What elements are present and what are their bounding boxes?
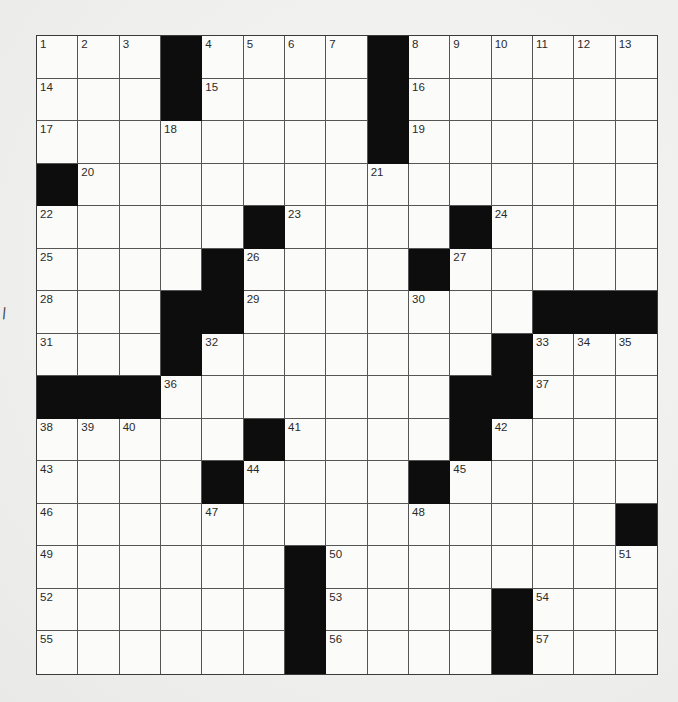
grid-cell-r3-c14[interactable]	[616, 164, 657, 207]
grid-cell-r5-c3[interactable]	[161, 249, 202, 292]
grid-cell-r14-c1[interactable]	[78, 631, 119, 674]
grid-cell-r1-c12[interactable]	[533, 79, 574, 122]
grid-cell-r1-c10[interactable]	[450, 79, 491, 122]
grid-cell-r2-c10[interactable]	[450, 121, 491, 164]
grid-cell-r8-c5[interactable]	[244, 376, 285, 419]
grid-cell-r10-c12[interactable]	[533, 461, 574, 504]
grid-cell-r12-c4[interactable]	[202, 546, 243, 589]
grid-cell-r14-c2[interactable]	[120, 631, 161, 674]
grid-cell-r8-c7[interactable]	[326, 376, 367, 419]
grid-cell-r11-c6[interactable]	[285, 504, 326, 547]
grid-cell-r12-c10[interactable]	[450, 546, 491, 589]
grid-cell-r13-c4[interactable]	[202, 589, 243, 632]
grid-cell-r6-c0[interactable]: 28	[37, 291, 78, 334]
grid-cell-r4-c6[interactable]: 23	[285, 206, 326, 249]
grid-cell-r4-c4[interactable]	[202, 206, 243, 249]
grid-cell-r3-c10[interactable]	[450, 164, 491, 207]
grid-cell-r14-c5[interactable]	[244, 631, 285, 674]
grid-cell-r13-c10[interactable]	[450, 589, 491, 632]
grid-cell-r12-c1[interactable]	[78, 546, 119, 589]
grid-cell-r4-c8[interactable]	[368, 206, 409, 249]
grid-cell-r11-c10[interactable]	[450, 504, 491, 547]
grid-cell-r2-c11[interactable]	[492, 121, 533, 164]
grid-cell-r3-c1[interactable]: 20	[78, 164, 119, 207]
grid-cell-r1-c7[interactable]	[326, 79, 367, 122]
grid-cell-r3-c3[interactable]	[161, 164, 202, 207]
grid-cell-r13-c5[interactable]	[244, 589, 285, 632]
grid-cell-r14-c8[interactable]	[368, 631, 409, 674]
grid-cell-r4-c14[interactable]	[616, 206, 657, 249]
grid-cell-r10-c3[interactable]	[161, 461, 202, 504]
grid-cell-r9-c6[interactable]: 41	[285, 419, 326, 462]
grid-cell-r14-c0[interactable]: 55	[37, 631, 78, 674]
grid-cell-r0-c10[interactable]: 9	[450, 36, 491, 79]
grid-cell-r12-c11[interactable]	[492, 546, 533, 589]
grid-cell-r11-c8[interactable]	[368, 504, 409, 547]
grid-cell-r5-c1[interactable]	[78, 249, 119, 292]
grid-cell-r7-c6[interactable]	[285, 334, 326, 377]
grid-cell-r10-c11[interactable]	[492, 461, 533, 504]
grid-cell-r9-c11[interactable]: 42	[492, 419, 533, 462]
grid-cell-r8-c4[interactable]	[202, 376, 243, 419]
grid-cell-r5-c8[interactable]	[368, 249, 409, 292]
grid-cell-r1-c14[interactable]	[616, 79, 657, 122]
grid-cell-r0-c14[interactable]: 13	[616, 36, 657, 79]
grid-cell-r13-c9[interactable]	[409, 589, 450, 632]
grid-cell-r9-c4[interactable]	[202, 419, 243, 462]
grid-cell-r6-c7[interactable]	[326, 291, 367, 334]
grid-cell-r4-c0[interactable]: 22	[37, 206, 78, 249]
grid-cell-r7-c2[interactable]	[120, 334, 161, 377]
grid-cell-r5-c13[interactable]	[574, 249, 615, 292]
grid-cell-r5-c2[interactable]	[120, 249, 161, 292]
grid-cell-r10-c2[interactable]	[120, 461, 161, 504]
grid-cell-r5-c14[interactable]	[616, 249, 657, 292]
grid-cell-r9-c13[interactable]	[574, 419, 615, 462]
grid-cell-r3-c6[interactable]	[285, 164, 326, 207]
grid-cell-r5-c6[interactable]	[285, 249, 326, 292]
grid-cell-r2-c4[interactable]	[202, 121, 243, 164]
grid-cell-r12-c8[interactable]	[368, 546, 409, 589]
grid-cell-r8-c12[interactable]: 37	[533, 376, 574, 419]
grid-cell-r1-c2[interactable]	[120, 79, 161, 122]
grid-cell-r13-c1[interactable]	[78, 589, 119, 632]
grid-cell-r0-c5[interactable]: 5	[244, 36, 285, 79]
grid-cell-r12-c2[interactable]	[120, 546, 161, 589]
grid-cell-r7-c9[interactable]	[409, 334, 450, 377]
grid-cell-r1-c0[interactable]: 14	[37, 79, 78, 122]
grid-cell-r11-c3[interactable]	[161, 504, 202, 547]
grid-cell-r2-c6[interactable]	[285, 121, 326, 164]
grid-cell-r14-c9[interactable]	[409, 631, 450, 674]
grid-cell-r3-c5[interactable]	[244, 164, 285, 207]
grid-cell-r8-c14[interactable]	[616, 376, 657, 419]
grid-cell-r10-c0[interactable]: 43	[37, 461, 78, 504]
grid-cell-r9-c12[interactable]	[533, 419, 574, 462]
grid-cell-r4-c11[interactable]: 24	[492, 206, 533, 249]
grid-cell-r10-c5[interactable]: 44	[244, 461, 285, 504]
grid-cell-r0-c12[interactable]: 11	[533, 36, 574, 79]
grid-cell-r8-c6[interactable]	[285, 376, 326, 419]
grid-cell-r3-c8[interactable]: 21	[368, 164, 409, 207]
grid-cell-r4-c2[interactable]	[120, 206, 161, 249]
grid-cell-r7-c7[interactable]	[326, 334, 367, 377]
grid-cell-r6-c10[interactable]	[450, 291, 491, 334]
grid-cell-r2-c0[interactable]: 17	[37, 121, 78, 164]
grid-cell-r3-c9[interactable]	[409, 164, 450, 207]
grid-cell-r11-c1[interactable]	[78, 504, 119, 547]
grid-cell-r9-c2[interactable]: 40	[120, 419, 161, 462]
grid-cell-r7-c14[interactable]: 35	[616, 334, 657, 377]
grid-cell-r11-c5[interactable]	[244, 504, 285, 547]
grid-cell-r8-c8[interactable]	[368, 376, 409, 419]
grid-cell-r0-c0[interactable]: 1	[37, 36, 78, 79]
grid-cell-r13-c7[interactable]: 53	[326, 589, 367, 632]
grid-cell-r12-c3[interactable]	[161, 546, 202, 589]
grid-cell-r5-c5[interactable]: 26	[244, 249, 285, 292]
grid-cell-r6-c8[interactable]	[368, 291, 409, 334]
grid-cell-r11-c4[interactable]: 47	[202, 504, 243, 547]
grid-cell-r12-c9[interactable]	[409, 546, 450, 589]
grid-cell-r7-c0[interactable]: 31	[37, 334, 78, 377]
grid-cell-r13-c14[interactable]	[616, 589, 657, 632]
grid-cell-r5-c10[interactable]: 27	[450, 249, 491, 292]
grid-cell-r0-c4[interactable]: 4	[202, 36, 243, 79]
grid-cell-r4-c12[interactable]	[533, 206, 574, 249]
grid-cell-r11-c9[interactable]: 48	[409, 504, 450, 547]
